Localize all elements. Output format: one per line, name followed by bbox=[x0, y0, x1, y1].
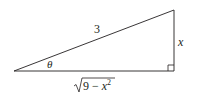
adjacent-radicand: 9 − x2 bbox=[83, 78, 111, 93]
adjacent-label: 9 − x2 bbox=[74, 78, 115, 93]
right-angle-marker bbox=[168, 65, 174, 71]
triangle-diagram: 3 x θ 9 − x2 bbox=[0, 0, 198, 96]
angle-label: θ bbox=[47, 58, 53, 70]
triangle bbox=[14, 10, 174, 71]
hypotenuse-label: 3 bbox=[94, 22, 100, 36]
opposite-label: x bbox=[177, 35, 184, 49]
